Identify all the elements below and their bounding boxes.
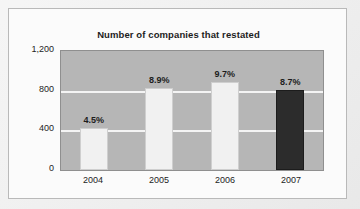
plot-area: 4.5% 8.9% 9.7% 8.7%	[60, 50, 324, 171]
x-axis-tick-2005: 2005	[126, 175, 192, 185]
x-axis: 2004 2005 2006 2007	[60, 175, 324, 185]
bar-2005[interactable]: 8.9%	[145, 88, 173, 170]
x-axis-tick-2004: 2004	[60, 175, 126, 185]
x-axis-tick-2006: 2006	[192, 175, 258, 185]
bar-slot-2006: 9.7%	[192, 51, 258, 170]
bar-slot-2005: 8.9%	[127, 51, 193, 170]
bar-2006[interactable]: 9.7%	[211, 82, 239, 170]
bar-label-2007: 8.7%	[280, 77, 301, 87]
x-axis-tick-2007: 2007	[258, 175, 324, 185]
bar-label-2004: 4.5%	[83, 115, 104, 125]
bar-series: 4.5% 8.9% 9.7% 8.7%	[61, 51, 323, 170]
chart-card: Number of companies that restated 1,200 …	[8, 8, 347, 199]
y-axis-tick-0: 0	[8, 163, 54, 173]
bar-label-2006: 9.7%	[214, 69, 235, 79]
bar-2007[interactable]: 8.7%	[276, 90, 304, 170]
bar-slot-2004: 4.5%	[61, 51, 127, 170]
y-axis-tick-800: 800	[8, 84, 54, 94]
chart-title: Number of companies that restated	[9, 29, 348, 40]
bar-label-2005: 8.9%	[149, 75, 170, 85]
y-axis-tick-400: 400	[8, 123, 54, 133]
page-background: Number of companies that restated 1,200 …	[0, 0, 360, 209]
y-axis-tick-1200: 1,200	[8, 44, 54, 54]
bar-slot-2007: 8.7%	[258, 51, 324, 170]
bar-2004[interactable]: 4.5%	[80, 128, 108, 170]
